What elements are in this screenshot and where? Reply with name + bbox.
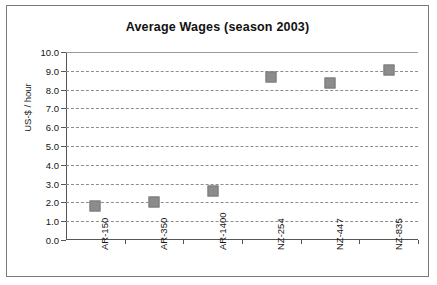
y-axis-tick <box>61 71 66 72</box>
y-axis-tick-label: 9.0 <box>46 65 59 76</box>
plot-area: 0.01.02.03.04.05.06.07.08.09.010.0 AR-15… <box>66 52 418 240</box>
y-axis-tick-label: 6.0 <box>46 122 59 133</box>
x-axis-tick <box>418 240 419 244</box>
y-axis-tick <box>61 165 66 166</box>
x-axis-tick-label: AR-150 <box>99 218 110 250</box>
y-axis-tick <box>61 184 66 185</box>
x-axis-tick <box>125 240 126 244</box>
gridline <box>66 90 418 91</box>
y-axis-tick-label: 7.0 <box>46 103 59 114</box>
y-axis-tick-label: 3.0 <box>46 178 59 189</box>
figure-frame: Average Wages (season 2003) US-$ / hour … <box>6 5 429 277</box>
x-axis-tick-label: AR-1400 <box>217 213 228 251</box>
y-axis-tick-label: 1.0 <box>46 216 59 227</box>
gridline <box>66 146 418 147</box>
y-axis-tick <box>61 240 66 241</box>
y-axis-title: US-$ / hour <box>22 63 33 153</box>
y-axis-tick-label: 10.0 <box>41 47 60 58</box>
gridline <box>66 108 418 109</box>
y-axis-tick-label: 5.0 <box>46 141 59 152</box>
page-title: Average Wages (season 2003) <box>7 20 428 34</box>
x-axis-tick-label: NZ-835 <box>393 218 404 250</box>
y-axis-tick-label: 2.0 <box>46 197 59 208</box>
data-point-marker <box>149 197 160 208</box>
x-axis-tick-label: NZ-254 <box>275 218 286 250</box>
gridline <box>66 202 418 203</box>
gridline <box>66 184 418 185</box>
y-axis-tick-label: 8.0 <box>46 84 59 95</box>
data-point-marker <box>90 201 101 212</box>
x-axis-tick <box>301 240 302 244</box>
x-axis-tick <box>242 240 243 244</box>
y-axis-tick <box>61 108 66 109</box>
y-axis-tick <box>61 52 66 53</box>
gridline <box>66 71 418 72</box>
y-axis-tick-label: 0.0 <box>46 235 59 246</box>
y-axis-tick-label: 4.0 <box>46 159 59 170</box>
x-axis-tick <box>183 240 184 244</box>
y-axis-tick <box>61 90 66 91</box>
data-point-marker <box>266 72 277 83</box>
data-point-marker <box>383 64 394 75</box>
gridline <box>66 221 418 222</box>
y-axis-tick <box>61 202 66 203</box>
gridline <box>66 127 418 128</box>
data-point-marker <box>207 186 218 197</box>
gridline <box>66 52 418 53</box>
y-axis-tick <box>61 146 66 147</box>
x-axis-tick-label: AR-350 <box>158 218 169 250</box>
x-axis-tick-label: NZ-447 <box>334 218 345 250</box>
gridline <box>66 165 418 166</box>
data-point-marker <box>325 78 336 89</box>
x-axis-tick <box>359 240 360 244</box>
y-axis-tick <box>61 127 66 128</box>
y-axis-tick <box>61 221 66 222</box>
